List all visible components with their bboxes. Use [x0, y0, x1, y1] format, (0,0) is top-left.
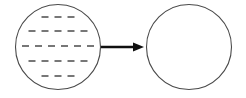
diagram-canvas	[0, 0, 246, 98]
diagram-svg	[0, 0, 246, 98]
